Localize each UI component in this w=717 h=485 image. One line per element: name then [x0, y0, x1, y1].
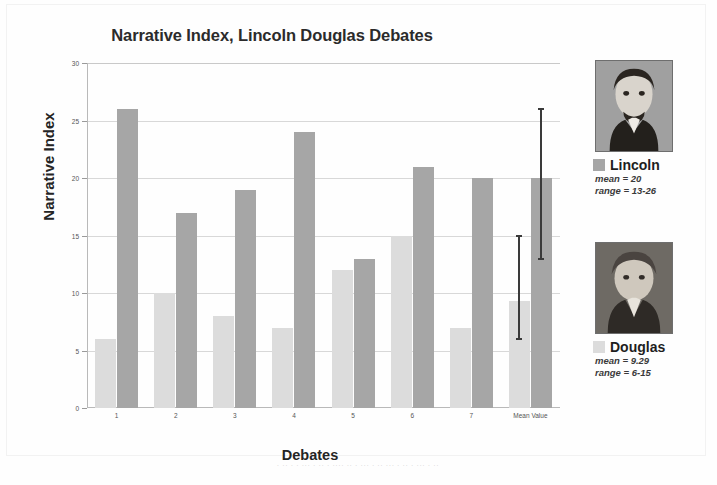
- error-bar-douglas: [518, 236, 520, 340]
- y-tick-mark: [82, 178, 87, 179]
- douglas-portrait: [595, 242, 673, 334]
- y-tick-label: 10: [55, 290, 79, 297]
- legend-name-row: Lincoln: [593, 157, 710, 173]
- error-cap-douglas-high: [516, 235, 522, 237]
- y-tick-mark: [82, 236, 87, 237]
- x-tick-label: 5: [351, 412, 355, 419]
- bar-douglas-4: [272, 328, 293, 409]
- legend-swatch-douglas: [593, 341, 605, 353]
- y-tick-label: 15: [55, 232, 79, 239]
- legend-mean-douglas: mean = 9.29: [595, 355, 710, 367]
- lincoln-portrait: [595, 60, 673, 152]
- legend-entry-douglas[interactable]: Douglasmean = 9.29range = 6-15: [585, 242, 710, 379]
- legend-range-lincoln: range = 13-26: [595, 185, 710, 197]
- legend-label-douglas: Douglas: [610, 339, 665, 355]
- y-tick-label: 30: [55, 60, 79, 67]
- figure-canvas: Narrative Index, Lincoln Douglas Debates…: [0, 0, 717, 485]
- bar-douglas-1: [95, 339, 116, 408]
- legend-name-row: Douglas: [593, 339, 710, 355]
- bar-douglas-2: [154, 293, 175, 408]
- error-bar-lincoln: [540, 109, 542, 259]
- y-tick-label: 5: [55, 347, 79, 354]
- y-tick-label: 0: [55, 405, 79, 412]
- x-tick-label: 3: [233, 412, 237, 419]
- bar-douglas-6: [391, 236, 412, 409]
- bar-lincoln-5: [354, 259, 375, 409]
- chart-title: Narrative Index, Lincoln Douglas Debates: [62, 26, 482, 45]
- bar-lincoln-2: [176, 213, 197, 409]
- x-tick-label: 2: [174, 412, 178, 419]
- legend-mean-lincoln: mean = 20: [595, 173, 710, 185]
- bars-layer: [87, 63, 560, 408]
- bar-lincoln-1: [117, 109, 138, 408]
- bar-douglas-5: [332, 270, 353, 408]
- y-tick-mark: [82, 351, 87, 352]
- x-tick-label: 6: [410, 412, 414, 419]
- x-axis-title: Debates: [95, 447, 525, 463]
- x-axis-tick-labels: 1234567Mean Value: [87, 412, 560, 430]
- legend-swatch-lincoln: [593, 159, 605, 171]
- error-cap-lincoln-low: [538, 258, 544, 260]
- y-tick-mark: [82, 63, 87, 64]
- y-tick-mark: [82, 121, 87, 122]
- bar-douglas-7: [450, 328, 471, 409]
- y-axis-tick-labels: 051015202530: [55, 63, 83, 408]
- bar-lincoln-4: [294, 132, 315, 408]
- legend-range-douglas: range = 6-15: [595, 367, 710, 379]
- bar-lincoln-7: [472, 178, 493, 408]
- legend-label-lincoln: Lincoln: [610, 157, 660, 173]
- y-tick-label: 25: [55, 117, 79, 124]
- bar-lincoln-6: [413, 167, 434, 409]
- y-axis-title: Narrative Index: [40, 67, 57, 267]
- y-tick-mark: [82, 408, 87, 409]
- x-tick-label: Mean Value: [513, 412, 547, 419]
- legend-entry-lincoln[interactable]: Lincolnmean = 20range = 13-26: [585, 60, 710, 197]
- y-tick-label: 20: [55, 175, 79, 182]
- error-cap-douglas-low: [516, 338, 522, 340]
- x-tick-label: 4: [292, 412, 296, 419]
- y-tick-mark: [82, 293, 87, 294]
- error-cap-lincoln-high: [538, 108, 544, 110]
- figure-caption: · ·· · · ··· · ·· · ···· ·· · ··· · ·· ·…: [18, 462, 698, 469]
- bar-lincoln-3: [235, 190, 256, 409]
- chart-legend: Lincolnmean = 20range = 13-26Douglasmean…: [585, 60, 710, 420]
- bar-douglas-3: [213, 316, 234, 408]
- x-tick-label: 1: [115, 412, 119, 419]
- x-tick-label: 7: [470, 412, 474, 419]
